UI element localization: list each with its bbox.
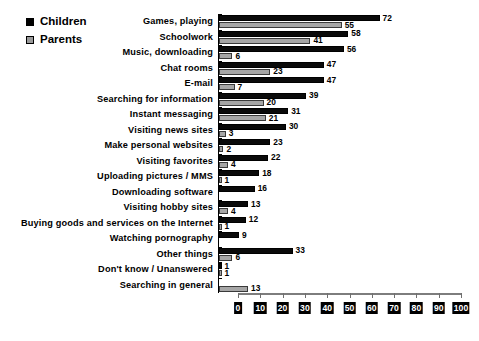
bar-value-label: 47 (327, 59, 336, 70)
x-axis-tick-label: 90 (432, 302, 445, 314)
bar-value-label: 13 (251, 199, 260, 210)
bars-cell: 336 (218, 247, 460, 263)
bars-cell: 121 (218, 216, 460, 232)
chart-row: Games, playing7255 (20, 14, 460, 30)
bar-value-label: 31 (291, 106, 300, 117)
bar-parents (219, 146, 223, 152)
bar-parents (219, 208, 228, 214)
bar-children (219, 77, 324, 83)
bar-value-label: 9 (242, 230, 247, 241)
bar-children (219, 62, 324, 68)
bar-value-label: 72 (383, 13, 392, 24)
x-axis-tick-label: 80 (410, 302, 423, 314)
bar-parents (219, 84, 235, 90)
bar-value-label: 12 (249, 214, 258, 225)
x-axis-tick-label: 40 (321, 302, 334, 314)
bar-value-label: 22 (271, 152, 280, 163)
category-label: E-mail (20, 76, 218, 92)
x-axis-tick-label: 70 (388, 302, 401, 314)
chart-row: Searching in general13 (20, 278, 460, 294)
x-axis-tick (372, 293, 373, 298)
bar-value-label: 18 (262, 168, 271, 179)
bar-parents (219, 131, 226, 137)
bar-parents (219, 286, 248, 292)
bars-cell: 3121 (218, 107, 460, 123)
bar-value-label: 47 (327, 75, 336, 86)
bar-value-label: 30 (289, 121, 298, 132)
bar-parents (219, 115, 266, 121)
chart-row: Chat rooms4723 (20, 61, 460, 77)
bars-cell: 477 (218, 76, 460, 92)
x-axis-tick (283, 293, 284, 298)
bar-parents (219, 255, 232, 261)
x-axis-tick (305, 293, 306, 298)
chart-row: Don't know / Unanswered11 (20, 262, 460, 278)
chart-row: E-mail477 (20, 76, 460, 92)
bars-cell: 3920 (218, 92, 460, 108)
bar-value-label: 16 (258, 183, 267, 194)
bars-cell: 232 (218, 138, 460, 154)
x-axis-ticks (238, 293, 461, 300)
bars-cell: 13 (218, 278, 460, 294)
x-axis-tick (327, 293, 328, 298)
bar-parents (219, 22, 342, 28)
category-label: Visiting favorites (20, 154, 218, 170)
bars-cell: 7255 (218, 14, 460, 30)
bar-parents (219, 270, 222, 276)
bar-children (219, 217, 246, 223)
category-label: Other things (20, 247, 218, 263)
x-axis-tick (350, 293, 351, 298)
x-axis-tick-label: 30 (299, 302, 312, 314)
chart-row: Instant messaging3121 (20, 107, 460, 123)
category-label: Uploading pictures / MMS (20, 169, 218, 185)
x-axis-tick-label: 0 (234, 302, 242, 314)
x-axis-tick-label: 100 (452, 302, 469, 314)
bar-children (219, 263, 222, 269)
chart-row: Searching for information3920 (20, 92, 460, 108)
category-label: Make personal websites (20, 138, 218, 154)
bar-value-label: 23 (273, 137, 282, 148)
bars-cell: 9 (218, 231, 460, 247)
bar-chart: Children Parents Games, playing7255Schoo… (0, 0, 479, 341)
bars-cell: 16 (218, 185, 460, 201)
category-label: Downloading software (20, 185, 218, 201)
bar-children (219, 232, 239, 238)
category-label: Don't know / Unanswered (20, 262, 218, 278)
category-label: Visiting news sites (20, 123, 218, 139)
category-label: Visiting hobby sites (20, 200, 218, 216)
chart-row: Schoolwork5841 (20, 30, 460, 46)
bars-cell: 224 (218, 154, 460, 170)
bar-parents (219, 177, 222, 183)
category-label: Buying goods and services on the Interne… (20, 216, 218, 232)
x-axis-tick (461, 293, 462, 298)
bar-children (219, 248, 293, 254)
bar-value-label: 33 (296, 245, 305, 256)
category-label: Watching pornography (20, 231, 218, 247)
bar-children (219, 31, 348, 37)
x-axis-tick (394, 293, 395, 298)
bars-cell: 134 (218, 200, 460, 216)
bars-cell: 4723 (218, 61, 460, 77)
chart-row: Visiting favorites224 (20, 154, 460, 170)
chart-row: Uploading pictures / MMS181 (20, 169, 460, 185)
x-axis-tick-label: 20 (276, 302, 289, 314)
chart-row: Music, downloading566 (20, 45, 460, 61)
bar-children (219, 155, 268, 161)
bars-cell: 5841 (218, 30, 460, 46)
bars-cell: 566 (218, 45, 460, 61)
bar-parents (219, 38, 310, 44)
bar-parents (219, 69, 270, 75)
category-label: Music, downloading (20, 45, 218, 61)
category-label: Schoolwork (20, 30, 218, 46)
bar-parents (219, 162, 228, 168)
bars-cell: 181 (218, 169, 460, 185)
chart-row: Downloading software16 (20, 185, 460, 201)
bar-children (219, 15, 380, 21)
x-axis-tick (238, 293, 239, 298)
bar-parents (219, 100, 264, 106)
chart-row: Buying goods and services on the Interne… (20, 216, 460, 232)
bars-cell: 303 (218, 123, 460, 139)
bar-value-label: 58 (351, 28, 360, 39)
bar-children (219, 186, 255, 192)
bar-parents (219, 53, 232, 59)
